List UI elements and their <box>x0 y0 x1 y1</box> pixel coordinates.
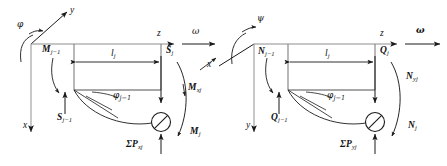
right-psi-label: ψ <box>257 14 264 23</box>
right-disk-node <box>366 113 385 132</box>
left-load-sum-subscript: xj <box>138 143 143 150</box>
left-moment-right-arc <box>177 62 186 136</box>
right-y-axis-label: y <box>246 121 250 131</box>
left-moment-axial-label: Mxj <box>188 83 201 93</box>
left-load-sum-label: ΣPxj <box>126 140 142 150</box>
left-angle-symbol: φ <box>113 90 119 100</box>
left-load-sum-symbol: P <box>132 139 138 149</box>
left-length-label: lj <box>111 49 115 59</box>
left-moment-right-subscript: j <box>199 130 201 137</box>
right-moment-left-label: Nj−1 <box>258 47 274 57</box>
diagram-vector-layer <box>0 0 447 166</box>
right-moment-axial-subscript: yj <box>413 75 418 82</box>
right-length-label: lj <box>325 49 329 59</box>
left-element-outline <box>74 44 161 90</box>
right-moment-axial-label: Nyj <box>406 72 418 82</box>
left-x-axis-label: x <box>23 121 27 131</box>
left-moment-right-label: Mj <box>190 127 200 137</box>
left-moment-left-symbol: M <box>42 44 50 54</box>
right-angle-subscript: j−1 <box>334 94 346 102</box>
right-moment-right-symbol: N <box>408 120 415 130</box>
left-omega-label: ω <box>192 27 199 36</box>
right-moment-right-subscript: j <box>415 124 417 131</box>
left-length-subscript: j <box>114 52 116 59</box>
right-shear-right-symbol: Q <box>380 45 387 55</box>
left-moment-axial-subscript: xj <box>197 86 202 93</box>
right-oblique-axis <box>219 44 254 66</box>
left-disk-node <box>152 113 171 132</box>
left-angle-label: φj−1 <box>113 91 131 100</box>
right-angle-indicator <box>288 90 332 118</box>
right-shear-left-label: Qj−1 <box>271 113 287 123</box>
right-length-subscript: j <box>328 52 330 59</box>
left-angle-indicator <box>74 90 118 118</box>
right-shear-right-label: Qj <box>380 46 389 56</box>
left-moment-left-subscript: j−1 <box>51 48 61 55</box>
left-moment-axial-symbol: M <box>188 82 196 92</box>
right-moment-right-arc <box>391 62 400 136</box>
right-angle-label: φj−1 <box>327 91 345 100</box>
right-moment-left-arc <box>266 58 273 93</box>
left-shear-left-label: Sj−1 <box>57 113 72 123</box>
left-z-axis-label: z <box>157 29 161 39</box>
right-moment-left-subscript: j−1 <box>265 50 275 57</box>
left-shear-right-label: Sj <box>166 46 173 56</box>
figure-canvas: φ y x z ω x Mj−1 lj Sj Sj−1 φj−1 Mxj Mj … <box>0 0 447 166</box>
left-moment-left-label: Mj−1 <box>42 45 60 55</box>
left-oblique-x-label: x <box>207 60 211 70</box>
left-phi-rotation-arc <box>21 31 44 62</box>
right-moment-left-symbol: N <box>258 46 265 56</box>
right-element-outline <box>288 44 375 90</box>
right-shear-right-subscript: j <box>387 49 389 56</box>
right-load-sum-label: ΣPyj <box>340 140 356 150</box>
right-angle-symbol: φ <box>327 90 333 100</box>
right-shear-left-subscript: j−1 <box>278 116 288 123</box>
left-shear-left-subscript: j−1 <box>62 116 72 123</box>
right-moment-axial-symbol: N <box>406 71 413 81</box>
right-moment-right-label: Nj <box>408 121 417 131</box>
left-moment-right-symbol: M <box>190 126 198 136</box>
left-y-axis <box>31 12 67 44</box>
left-angle-subscript: j−1 <box>120 94 132 102</box>
right-z-axis-label: z <box>380 29 384 39</box>
right-omega-label: ω <box>416 26 425 35</box>
left-y-axis-label: y <box>70 6 74 16</box>
left-phi-label: φ <box>17 20 23 29</box>
right-load-sum-symbol: P <box>346 139 352 149</box>
left-moment-left-arc <box>52 58 59 93</box>
left-diagram-group <box>21 12 217 154</box>
right-shear-left-symbol: Q <box>271 112 278 122</box>
left-shear-right-subscript: j <box>171 49 173 56</box>
right-load-sum-subscript: yj <box>352 143 357 150</box>
